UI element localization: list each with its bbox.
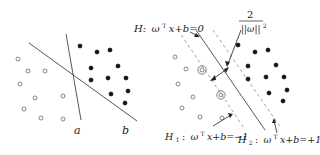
h2-label: H 2 : ω T x+b=+1 (237, 131, 320, 147)
open-point (180, 106, 184, 110)
arrow-head-icon (228, 113, 233, 118)
filled-point (126, 89, 130, 93)
right-panel: H: ω T x+b=0 2 ||ω|| 2 H 1 : ω T x+b=−1 … (133, 9, 320, 147)
open-point (22, 107, 26, 111)
open-point (198, 115, 202, 119)
open-point (16, 57, 20, 61)
support-vector-point (219, 93, 223, 97)
open-point (184, 67, 188, 71)
filled-point (89, 78, 93, 82)
open-point (33, 96, 37, 100)
filled-point (274, 63, 278, 67)
filled-point (124, 76, 128, 80)
open-point (61, 94, 65, 98)
filled-point (236, 43, 240, 47)
h1-label-pointer (213, 115, 231, 126)
filled-point (267, 91, 271, 95)
filled-point (264, 75, 268, 79)
filled-point (116, 64, 120, 68)
filled-point (109, 92, 113, 96)
h1-label: H 1 : ω T x+b=−1 (164, 128, 248, 144)
svm-diagram: a b H: ω T x+b=0 (0, 0, 320, 155)
open-point (173, 55, 177, 59)
line-b-label: b (122, 124, 129, 137)
margin-numerator: 2 (247, 9, 253, 20)
filled-point (246, 64, 250, 68)
hyperplane-label: H: ω T x+b=0 (133, 19, 205, 34)
support-vector-point (200, 68, 204, 72)
filled-point (246, 77, 250, 81)
filled-point (78, 44, 82, 48)
filled-point (89, 66, 93, 70)
open-point (18, 82, 22, 86)
filled-point (253, 50, 257, 54)
filled-point (108, 48, 112, 52)
filled-point (95, 50, 99, 54)
open-point (43, 69, 47, 73)
arrow-head-icon (210, 75, 216, 81)
filled-point (123, 101, 127, 105)
separator-line-b (29, 43, 137, 121)
open-point (191, 95, 195, 99)
filled-point (106, 76, 110, 80)
negative-class-points (173, 55, 224, 120)
support-vector-ring (217, 91, 225, 99)
open-point (176, 82, 180, 86)
arrow-head-icon (225, 61, 230, 67)
line-a-label: a (74, 124, 81, 137)
negative-class-points (16, 57, 65, 121)
open-point (61, 117, 65, 121)
filled-point (266, 48, 270, 52)
filled-point (282, 75, 286, 79)
support-vectors (198, 66, 225, 99)
open-point (39, 116, 43, 120)
left-panel: a b (16, 34, 137, 137)
margin-denominator: ||ω|| 2 (241, 22, 267, 35)
filled-point (285, 88, 289, 92)
margin-line-h1 (178, 30, 244, 128)
open-point (26, 69, 30, 73)
positive-class-points (78, 44, 130, 105)
positive-class-points (236, 43, 289, 103)
filled-point (281, 99, 285, 103)
